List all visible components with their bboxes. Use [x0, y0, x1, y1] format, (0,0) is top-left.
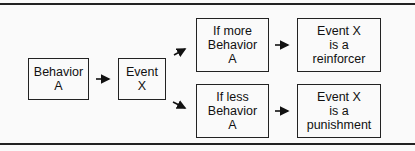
arrow-icon [174, 49, 185, 55]
arrow-icon [173, 102, 185, 108]
arrows-layer [0, 0, 415, 151]
